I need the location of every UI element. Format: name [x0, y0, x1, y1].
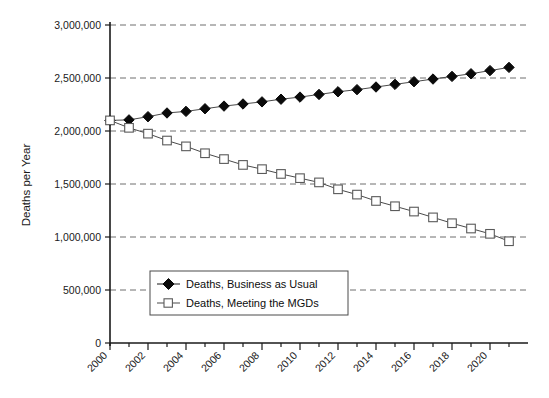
chart-svg: Deaths per Year 0500,0001,000,0001,500,0…: [0, 0, 549, 398]
y-axis-tick-labels: 0500,0001,000,0001,500,0002,000,0002,500…: [54, 19, 101, 349]
series-business-as-usual: [105, 62, 514, 125]
data-point-diamond: [162, 108, 172, 118]
data-point-square: [220, 155, 229, 164]
data-point-diamond: [333, 87, 343, 97]
data-point-diamond: [314, 89, 324, 99]
series-meeting-the-mgds: [106, 116, 514, 245]
y-tick-label: 1,000,000: [54, 231, 101, 243]
data-point-square: [277, 170, 286, 179]
data-point-diamond: [504, 62, 514, 72]
x-axis-tick-labels: 2000200220042006200820102012201420162018…: [84, 349, 489, 374]
data-point-square: [429, 213, 438, 222]
x-tick-label: 2006: [198, 349, 223, 374]
y-tick-label: 3,000,000: [54, 19, 101, 31]
x-axis-tickmarks: [110, 343, 509, 350]
data-point-square: [258, 165, 267, 174]
data-point-square: [334, 185, 343, 194]
data-point-diamond: [200, 104, 210, 114]
data-point-diamond: [352, 84, 362, 94]
data-point-diamond: [428, 74, 438, 84]
data-point-diamond: [143, 111, 153, 121]
data-point-square: [505, 237, 514, 246]
data-point-square: [182, 142, 191, 151]
data-point-diamond: [371, 82, 381, 92]
x-tick-label: 2018: [426, 349, 451, 374]
x-tick-label: 2008: [236, 349, 261, 374]
legend-label-2: Deaths, Meeting the MGDs: [186, 297, 319, 309]
data-point-square: [372, 197, 381, 206]
data-point-diamond: [219, 101, 229, 111]
x-tick-label: 2016: [388, 349, 413, 374]
data-point-square: [391, 202, 400, 211]
data-point-square: [296, 174, 305, 183]
data-point-square: [106, 116, 115, 125]
data-point-diamond: [181, 106, 191, 116]
chart-legend: Deaths, Business as Usual Deaths, Meetin…: [150, 271, 348, 315]
data-point-diamond: [485, 65, 495, 75]
data-point-square: [353, 190, 362, 199]
data-point-square: [144, 129, 153, 138]
x-tick-label: 2012: [312, 349, 337, 374]
x-tick-label: 2020: [464, 349, 489, 374]
data-point-diamond: [238, 99, 248, 109]
data-point-diamond: [390, 79, 400, 89]
x-tick-label: 2010: [274, 349, 299, 374]
gridlines: [110, 25, 528, 290]
y-axis-title: Deaths per Year: [20, 144, 32, 227]
data-point-square: [125, 124, 134, 133]
legend-label-1: Deaths, Business as Usual: [186, 278, 317, 290]
y-tick-label: 500,000: [63, 284, 101, 296]
data-point-square: [163, 136, 172, 145]
data-point-square: [486, 230, 495, 239]
open-square-icon: [164, 299, 172, 307]
data-point-square: [239, 161, 248, 170]
x-tick-label: 2004: [160, 349, 185, 374]
x-tick-label: 2002: [122, 349, 147, 374]
data-point-square: [315, 178, 324, 187]
data-point-square: [448, 219, 457, 228]
chart-container: Deaths per Year 0500,0001,000,0001,500,0…: [0, 0, 549, 398]
data-point-square: [410, 207, 419, 216]
y-tick-label: 2,500,000: [54, 72, 101, 84]
data-point-square: [467, 224, 476, 233]
x-tick-label: 2000: [84, 349, 109, 374]
data-point-square: [201, 149, 210, 158]
data-point-diamond: [276, 94, 286, 104]
x-tick-label: 2014: [350, 349, 375, 374]
y-tick-label: 1,500,000: [54, 178, 101, 190]
data-point-diamond: [466, 69, 476, 79]
y-tick-label: 0: [95, 337, 101, 349]
data-point-diamond: [295, 92, 305, 102]
y-tick-label: 2,000,000: [54, 125, 101, 137]
data-point-diamond: [447, 71, 457, 81]
data-point-diamond: [257, 97, 267, 107]
